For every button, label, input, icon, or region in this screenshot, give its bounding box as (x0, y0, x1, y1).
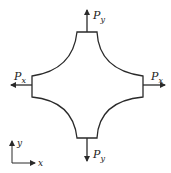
specimen-outline (32, 32, 143, 138)
load-label-bottom: Py (92, 148, 105, 163)
coordinate-axes: y x (12, 138, 43, 168)
cruciform-diagram: Py Py Px Px y x (0, 0, 171, 173)
y-axis-label: y (16, 138, 23, 148)
load-label-right: Px (150, 70, 163, 85)
load-label-top: Py (92, 9, 105, 24)
x-axis-label: x (38, 158, 43, 168)
load-label-left: Px (13, 70, 26, 85)
